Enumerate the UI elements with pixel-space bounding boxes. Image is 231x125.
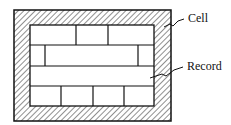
record-label: Record [187,59,222,73]
cell-record-diagram: Cell Record [0,0,231,125]
cell-label: Cell [188,11,209,25]
